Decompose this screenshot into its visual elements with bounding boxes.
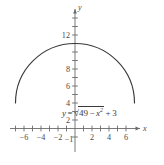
x-axis-arrowhead: [136, 127, 141, 131]
radicand: 49−x2: [78, 106, 104, 118]
x-tick-label: −2: [54, 133, 63, 142]
x-tick-label: 4: [107, 133, 111, 142]
negative-one-label: −1: [65, 135, 74, 144]
y-tick-label: 8: [66, 65, 70, 74]
equation-equals: =: [66, 108, 74, 118]
radical-expression: √49−x2: [74, 106, 104, 118]
radicand-minus: −: [88, 108, 96, 118]
x-axis-label: x: [142, 124, 147, 133]
equation-plus: +: [104, 108, 112, 118]
radicand-constant: 49: [79, 108, 88, 118]
x-tick-label: 6: [124, 133, 128, 142]
y-axis-label: y: [77, 3, 82, 12]
y-tick-label: 12: [62, 31, 70, 40]
x-tick-label: 2: [90, 133, 94, 142]
y-axis-group: [72, 9, 78, 152]
radicand-exponent: 2: [100, 107, 103, 113]
graph-figure: −6 −4 −2 2 4 6 −1 2 4 6 8 12 x y y=√49−x…: [0, 0, 164, 165]
plot-canvas: −6 −4 −2 2 4 6 −1 2 4 6 8 12 x y: [0, 0, 164, 165]
y-axis-arrowhead: [73, 9, 77, 14]
equation-annotation: y=√49−x2+3: [62, 106, 117, 118]
y-tick-label: 6: [66, 82, 70, 91]
equation-constant: 3: [112, 108, 117, 118]
x-tick-label: −6: [20, 133, 29, 142]
x-tick-label: −4: [37, 133, 46, 142]
